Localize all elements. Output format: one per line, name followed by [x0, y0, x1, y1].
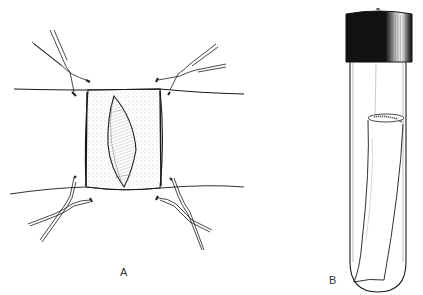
surgical-site-drawing [0, 0, 260, 295]
tissue-specimen [354, 114, 404, 282]
test-tube-drawing [270, 0, 423, 295]
panel-label-b: B [329, 274, 336, 286]
hemostat-clamp-icon [32, 30, 90, 96]
panel-b-test-tube [270, 0, 423, 295]
hemostat-clamp-icon [156, 44, 226, 95]
panel-label-a: A [120, 266, 127, 278]
tube-cap [346, 8, 412, 62]
panel-a-surgical-site [0, 0, 260, 295]
hemostat-clamp-icon [156, 178, 212, 250]
hemostat-clamp-icon [28, 176, 92, 242]
test-tube [350, 62, 406, 292]
